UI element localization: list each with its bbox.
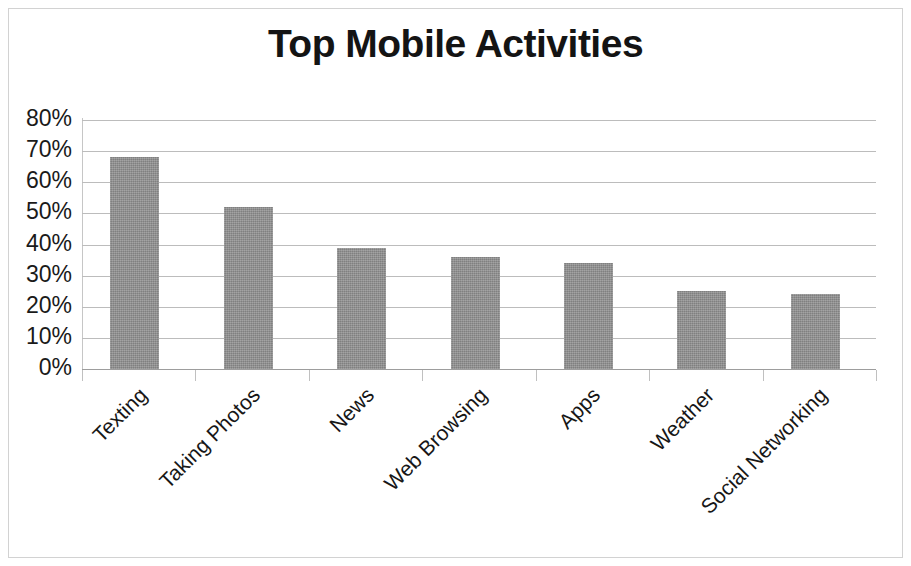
plot-area [82,120,876,369]
bar [110,157,159,369]
y-tick-label: 30% [0,261,72,288]
x-axis-tick [422,370,423,381]
y-tick-label: 20% [0,292,72,319]
bar [677,291,726,369]
bar [451,257,500,369]
gridline [82,151,876,152]
x-axis-tick [536,370,537,381]
bar [337,248,386,369]
gridline [82,245,876,246]
y-tick-label: 60% [0,167,72,194]
y-tick-label: 70% [0,136,72,163]
x-axis-tick [876,370,877,381]
y-tick-label: 80% [0,105,72,132]
bar [224,207,273,369]
gridline [82,120,876,121]
gridline [82,182,876,183]
y-tick-label: 0% [0,354,72,381]
gridline [82,213,876,214]
bar [791,294,840,369]
bar [564,263,613,369]
x-axis-tick [309,370,310,381]
x-axis-tick [763,370,764,381]
y-tick-label: 40% [0,230,72,257]
x-axis-tick [195,370,196,381]
x-axis-tick [649,370,650,381]
chart-title: Top Mobile Activities [0,22,911,66]
y-tick-label: 50% [0,198,72,225]
axis-baseline [82,369,876,370]
y-tick-label: 10% [0,323,72,350]
x-axis-tick [82,370,83,381]
